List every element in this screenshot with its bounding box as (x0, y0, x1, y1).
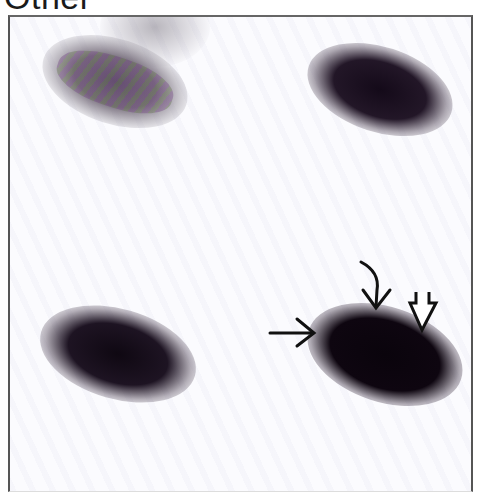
curved-arrow-icon (361, 262, 390, 308)
annotation-layer (0, 0, 478, 494)
open-arrow-icon (410, 292, 436, 330)
straight-arrow-icon (270, 319, 314, 346)
